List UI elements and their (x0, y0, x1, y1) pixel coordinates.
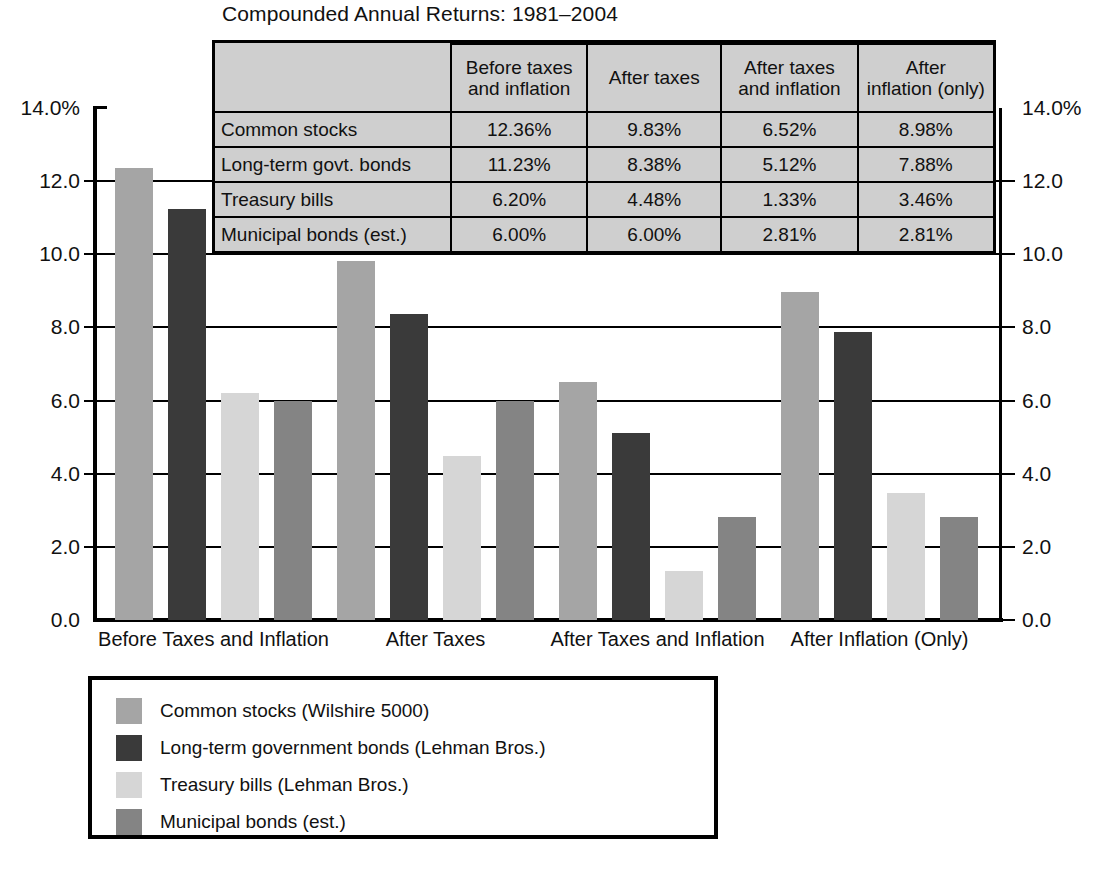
y-tick-left (84, 326, 97, 328)
table-row-header: Treasury bills (215, 182, 451, 217)
legend-swatch-icon (116, 772, 142, 798)
table-cell: 5.12% (721, 147, 857, 182)
y-tick-right (1000, 253, 1015, 255)
y-axis-label-left: 10.0 (39, 242, 80, 266)
y-axis-label-left: 14.0% (20, 96, 80, 120)
y-axis-label-right: 14.0% (1022, 96, 1082, 120)
bar (834, 332, 872, 620)
table-cell: 9.83% (587, 112, 721, 147)
table-row: Long-term govt. bonds11.23%8.38%5.12%7.8… (215, 147, 993, 182)
y-axis-label-left: 6.0 (51, 389, 80, 413)
legend-item[interactable]: Common stocks (Wilshire 5000) (116, 698, 429, 724)
x-axis-label: Before Taxes and Inflation (98, 628, 329, 651)
bar (168, 209, 206, 620)
bar (781, 292, 819, 620)
y-axis-label-right: 8.0 (1022, 315, 1051, 339)
table-cell: 7.88% (858, 147, 993, 182)
legend-swatch-icon (116, 735, 142, 761)
table-header-row: Before taxesand inflationAfter taxesAfte… (215, 44, 993, 112)
table-body: Common stocks12.36%9.83%6.52%8.98%Long-t… (215, 112, 993, 251)
table-cell: 11.23% (451, 147, 587, 182)
bar (390, 314, 428, 620)
legend-item[interactable]: Treasury bills (Lehman Bros.) (116, 772, 408, 798)
bar (559, 382, 597, 620)
table-cell: 2.81% (721, 217, 857, 251)
table-cell: 4.48% (587, 182, 721, 217)
table-row-header: Common stocks (215, 112, 451, 147)
data-summary-table: Before taxesand inflationAfter taxesAfte… (212, 40, 996, 254)
y-axis-label-left: 0.0 (51, 608, 80, 632)
y-axis-label-right: 2.0 (1022, 535, 1051, 559)
y-axis-label-left: 4.0 (51, 462, 80, 486)
table-cell: 8.98% (858, 112, 993, 147)
gridline (97, 326, 1000, 328)
y-axis-label-left: 2.0 (51, 535, 80, 559)
table-column-header: Before taxesand inflation (451, 44, 587, 112)
x-axis-label: After Taxes and Inflation (550, 628, 764, 651)
y-tick-left (84, 546, 97, 548)
table-corner-cell (215, 44, 451, 112)
bar (115, 168, 153, 620)
y-tick-right (1000, 546, 1015, 548)
table-cell: 6.20% (451, 182, 587, 217)
y-tick-right (1000, 400, 1015, 402)
y-tick-right (1000, 180, 1015, 182)
bar (718, 517, 756, 620)
legend-item[interactable]: Long-term government bonds (Lehman Bros.… (116, 735, 545, 761)
y-axis-label-right: 0.0 (1022, 608, 1051, 632)
y-tick-left (84, 180, 97, 182)
y-axis-label-left: 12.0 (39, 169, 80, 193)
bar (665, 571, 703, 620)
legend-item-label: Municipal bonds (est.) (160, 811, 346, 833)
y-tick-right (1000, 619, 1015, 621)
legend-item[interactable]: Municipal bonds (est.) (116, 809, 346, 835)
table-column-header: After taxes (587, 44, 721, 112)
table-row: Common stocks12.36%9.83%6.52%8.98% (215, 112, 993, 147)
y-axis-label-right: 4.0 (1022, 462, 1051, 486)
table-cell: 2.81% (858, 217, 993, 251)
bar (274, 401, 312, 620)
x-axis-label: After Taxes (386, 628, 486, 651)
y-tick-left (84, 473, 97, 475)
bar (940, 517, 978, 620)
table-cell: 6.52% (721, 112, 857, 147)
table-cell: 6.00% (451, 217, 587, 251)
table-row-header: Municipal bonds (est.) (215, 217, 451, 251)
x-axis-label: After Inflation (Only) (791, 628, 969, 651)
legend-item-label: Common stocks (Wilshire 5000) (160, 700, 429, 722)
legend-item-label: Treasury bills (Lehman Bros.) (160, 774, 408, 796)
y-tick-left (84, 253, 97, 255)
table-row: Municipal bonds (est.)6.00%6.00%2.81%2.8… (215, 217, 993, 251)
table-row: Treasury bills6.20%4.48%1.33%3.46% (215, 182, 993, 217)
y-axis-label-right: 10.0 (1022, 242, 1063, 266)
table-column-header: Afterinflation (only) (858, 44, 993, 112)
y-axis-label-right: 6.0 (1022, 389, 1051, 413)
y-tick-left (84, 400, 97, 402)
table-cell: 6.00% (587, 217, 721, 251)
chart-title: Compounded Annual Returns: 1981–2004 (0, 2, 840, 26)
bar (221, 393, 259, 620)
legend: Common stocks (Wilshire 5000)Long-term g… (88, 676, 718, 839)
table-cell: 3.46% (858, 182, 993, 217)
bar (337, 261, 375, 620)
y-axis-label-right: 12.0 (1022, 169, 1063, 193)
bar (887, 493, 925, 620)
legend-swatch-icon (116, 809, 142, 835)
table-cell: 12.36% (451, 112, 587, 147)
y-tick-right (1000, 473, 1015, 475)
legend-item-label: Long-term government bonds (Lehman Bros.… (160, 737, 545, 759)
table-cell: 8.38% (587, 147, 721, 182)
table-column-header: After taxesand inflation (721, 44, 857, 112)
y-axis-label-left: 8.0 (51, 315, 80, 339)
bar (443, 456, 481, 620)
table-cell: 1.33% (721, 182, 857, 217)
legend-swatch-icon (116, 698, 142, 724)
table-row-header: Long-term govt. bonds (215, 147, 451, 182)
bar (496, 401, 534, 620)
bar (612, 433, 650, 620)
y-tick-right (1000, 326, 1015, 328)
